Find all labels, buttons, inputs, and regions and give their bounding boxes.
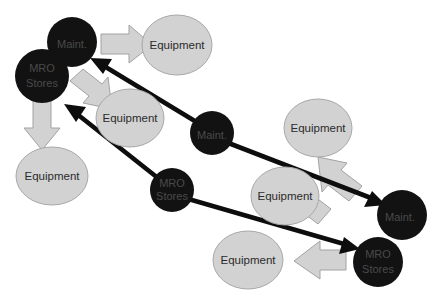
- node-equipment-top[interactable]: Equipment: [142, 15, 212, 75]
- node-mro-top-left[interactable]: MRO Stores: [15, 49, 69, 103]
- diagram-canvas: Equipment Equipment Equipment Equipment …: [0, 0, 442, 302]
- node-mro-middle[interactable]: MRO Stores: [150, 168, 194, 212]
- block-arrow-mro-to-equipment-left: [24, 96, 60, 150]
- block-arrow-mro-bottom-to-equipment-bot: [294, 241, 346, 279]
- node-equipment-upper-mid[interactable]: Equipment: [96, 89, 164, 147]
- node-mro-bottom-right[interactable]: MRO Stores: [353, 237, 403, 287]
- node-equipment-left[interactable]: Equipment: [16, 147, 88, 205]
- network-diagram: Equipment Equipment Equipment Equipment …: [0, 0, 442, 302]
- node-equipment-right[interactable]: Equipment: [284, 99, 352, 157]
- node-maint-right[interactable]: Maint.: [377, 190, 427, 240]
- node-equipment-mid-low[interactable]: Equipment: [251, 167, 319, 225]
- node-equipment-bottom[interactable]: Equipment: [213, 231, 283, 289]
- node-maint-middle[interactable]: Maint.: [190, 111, 234, 155]
